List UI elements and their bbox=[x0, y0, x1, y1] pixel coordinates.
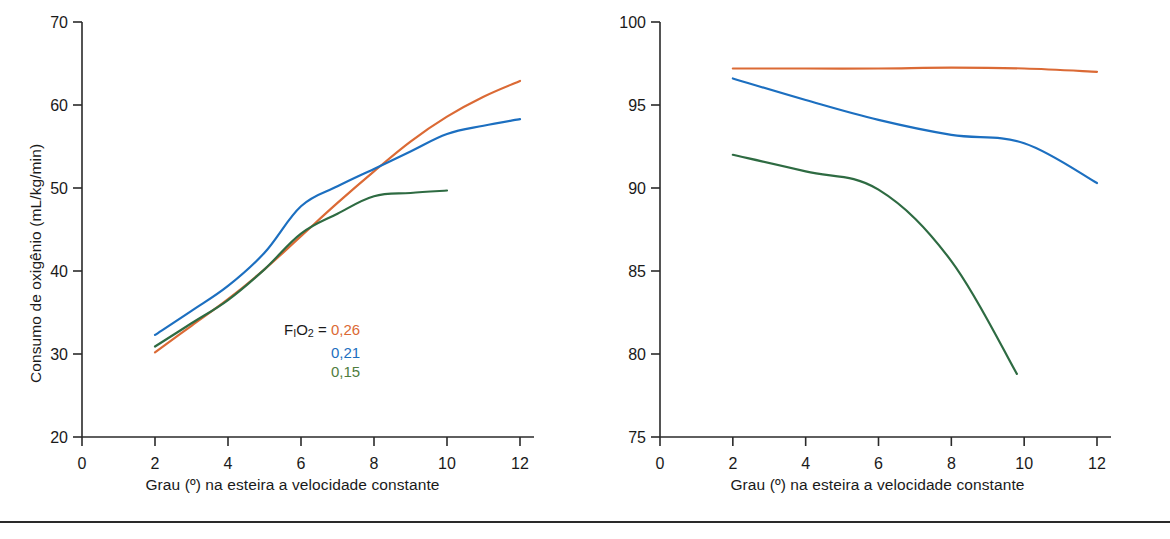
y-tick-label: 30 bbox=[50, 346, 68, 363]
y-tick-label: 40 bbox=[50, 263, 68, 280]
bottom-divider-rule bbox=[0, 521, 1170, 523]
x-axis-label-left: Grau (º) na esteira a velocidade constan… bbox=[0, 476, 585, 494]
y-tick-label: 100 bbox=[619, 14, 646, 31]
x-tick-label: 0 bbox=[78, 455, 87, 472]
legend-value-0: 0,26 bbox=[331, 321, 360, 338]
line-chart-left: 203040506070024681012 bbox=[0, 0, 585, 510]
y-tick-label: 60 bbox=[50, 97, 68, 114]
series-line-0-15 bbox=[733, 155, 1017, 374]
x-tick-label: 4 bbox=[224, 455, 233, 472]
y-tick-label: 80 bbox=[628, 346, 646, 363]
x-tick-label: 2 bbox=[151, 455, 160, 472]
legend-left: FIO2 = 0,26 0,21 0,15 bbox=[284, 320, 360, 381]
y-tick-label: 70 bbox=[50, 14, 68, 31]
x-tick-label: 10 bbox=[438, 455, 456, 472]
x-tick-label: 10 bbox=[1015, 455, 1033, 472]
x-tick-label: 12 bbox=[511, 455, 529, 472]
x-tick-label: 6 bbox=[297, 455, 306, 472]
y-axis-label-left: Consumo de oxigênio (mL/kg/min) bbox=[27, 144, 45, 383]
legend-value-2: 0,15 bbox=[331, 363, 360, 380]
y-tick-label: 20 bbox=[50, 429, 68, 446]
y-tick-label: 90 bbox=[628, 180, 646, 197]
x-tick-label: 4 bbox=[801, 455, 810, 472]
x-tick-label: 8 bbox=[947, 455, 956, 472]
x-axis-label-right-text: Grau (º) na esteira a velocidade constan… bbox=[730, 476, 1024, 494]
chart-panel-right: 7580859095100024681012 SaO2 (%) FIO2 = 0… bbox=[585, 0, 1170, 510]
x-tick-label: 8 bbox=[370, 455, 379, 472]
legend-row-0: FIO2 = 0,26 bbox=[284, 320, 360, 343]
x-axis-label-right: Grau (º) na esteira a velocidade constan… bbox=[585, 476, 1170, 494]
x-tick-label: 6 bbox=[874, 455, 883, 472]
y-tick-label: 95 bbox=[628, 97, 646, 114]
y-tick-label: 50 bbox=[50, 180, 68, 197]
legend-row-2: 0,15 bbox=[284, 362, 360, 381]
legend-key-fio2: FIO2 = bbox=[284, 321, 331, 338]
x-axis-label-left-text: Grau (º) na esteira a velocidade constan… bbox=[145, 476, 439, 494]
figure-two-line-charts: 203040506070024681012 Consumo de oxigêni… bbox=[0, 0, 1170, 539]
y-tick-label: 75 bbox=[628, 429, 646, 446]
x-tick-label: 12 bbox=[1088, 455, 1106, 472]
y-axis-label-left-text: Consumo de oxigênio (mL/kg/min) bbox=[27, 144, 44, 383]
chart-panel-left: 203040506070024681012 Consumo de oxigêni… bbox=[0, 0, 585, 510]
line-chart-right: 7580859095100024681012 bbox=[585, 0, 1170, 510]
series-line-0-26 bbox=[733, 68, 1097, 72]
x-tick-label: 2 bbox=[728, 455, 737, 472]
y-tick-label: 85 bbox=[628, 263, 646, 280]
legend-row-1: 0,21 bbox=[284, 343, 360, 362]
legend-value-1: 0,21 bbox=[331, 344, 360, 361]
series-line-0-21 bbox=[155, 119, 520, 335]
x-tick-label: 0 bbox=[656, 455, 665, 472]
